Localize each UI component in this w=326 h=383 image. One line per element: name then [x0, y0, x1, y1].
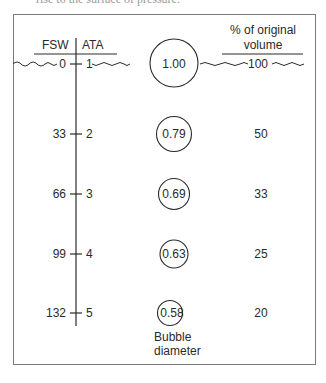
volume-value: 20 [251, 306, 271, 320]
header-volume-line2: volume [222, 38, 304, 52]
ata-value: 1 [86, 57, 93, 71]
wave-right-1 [200, 63, 248, 66]
ata-value: 3 [86, 187, 93, 201]
header-fsw: FSW [42, 38, 69, 52]
diameter-value: 1.00 [150, 57, 198, 71]
wave-right-2 [272, 63, 304, 66]
ata-value: 5 [86, 306, 93, 320]
diameter-value: 0.79 [150, 127, 198, 141]
volume-value: 100 [244, 57, 272, 71]
volume-value: 33 [251, 187, 271, 201]
diameter-value: 0.58 [148, 306, 196, 320]
footer-label-line1: Bubble [154, 330, 191, 344]
diameter-value: 0.63 [150, 247, 198, 261]
volume-value: 25 [251, 247, 271, 261]
fsw-value: 99 [40, 247, 66, 261]
ata-value: 2 [86, 127, 93, 141]
header-ata: ATA [82, 38, 104, 52]
header-volume-line1: % of original [222, 23, 304, 37]
fsw-value: 132 [40, 306, 66, 320]
fsw-value: 33 [40, 127, 66, 141]
fsw-value: 0 [40, 57, 66, 71]
fsw-value: 66 [40, 187, 66, 201]
diameter-value: 0.69 [150, 187, 198, 201]
ata-value: 4 [86, 247, 93, 261]
volume-value: 50 [251, 127, 271, 141]
footer-label-line2: diameter [154, 344, 201, 358]
wave-left-2 [92, 63, 130, 66]
